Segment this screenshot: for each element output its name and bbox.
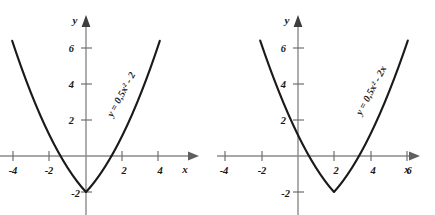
y-tick-label: 6 <box>281 43 287 54</box>
x-tick-label: 2 <box>332 165 339 176</box>
y-axis-left <box>82 15 91 215</box>
y-tick-label: 4 <box>68 79 74 90</box>
chart-right-svg: -4 -2 2 4 6 6 4 2 -2 x y y = 0,5x² - 2x <box>217 0 435 215</box>
y-tick-label: 6 <box>69 43 75 54</box>
y-tick-label-vertex: -2 <box>281 188 290 199</box>
y-tick-label: 2 <box>280 115 287 126</box>
parabola-figure: -4 -2 2 4 6 4 2 -2 x y y = 0,5x² - 2 <box>0 0 435 215</box>
y-axis-label: y <box>71 14 78 26</box>
x-tick-label: 4 <box>369 165 375 176</box>
chart-panel-right: -4 -2 2 4 6 6 4 2 -2 x y y = 0,5x² - 2x <box>217 0 435 215</box>
x-axis-right <box>217 152 420 161</box>
y-tick-label: 4 <box>280 79 286 90</box>
x-tick-label: 4 <box>156 165 162 176</box>
y-tick-label-vertex: -2 <box>71 188 80 199</box>
x-tick-label: 2 <box>120 165 127 176</box>
y-axis-right <box>294 15 303 215</box>
y-axis-label: y <box>283 14 290 26</box>
x-tick-label: -4 <box>9 165 18 176</box>
y-tick-label: 2 <box>68 115 75 126</box>
x-tick-label: -4 <box>220 165 229 176</box>
x-tick-label: -2 <box>45 165 54 176</box>
chart-left-svg: -4 -2 2 4 6 4 2 -2 x y y = 0,5x² - 2 <box>0 0 217 215</box>
equation-label: y = 0,5x² - 2x <box>353 64 389 118</box>
x-axis-label: x <box>403 163 410 175</box>
chart-panel-left: -4 -2 2 4 6 4 2 -2 x y y = 0,5x² - 2 <box>0 0 217 215</box>
x-tick-label: -2 <box>258 165 267 176</box>
x-axis-left <box>0 152 199 161</box>
x-axis-label: x <box>181 163 188 175</box>
